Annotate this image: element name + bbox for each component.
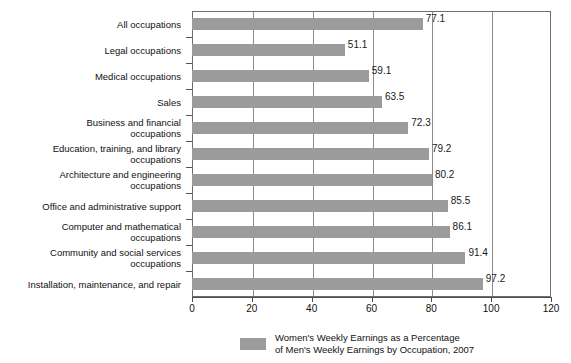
bar-value-label: 80.2 [432,169,454,181]
category-label-line: Sales [0,97,181,108]
y-tick [186,37,192,38]
category-label-line: Business and financial [0,117,181,128]
x-tick-40 [312,297,313,302]
x-tick-label-80: 80 [426,303,437,315]
category-label: Business and financialoccupations [0,117,186,139]
x-tick-120 [551,297,552,302]
bar-value-label: 59.1 [369,65,391,77]
x-tick-label-120: 120 [543,303,560,315]
y-tick [186,115,192,116]
y-tick [186,141,192,142]
legend-label: Women's Weekly Earnings as a Percentage … [275,332,474,355]
y-tick [186,193,192,194]
category-label-line: Computer and mathematical [0,221,181,232]
category-label: Community and social servicesoccupations [0,247,186,269]
category-label-line: Office and administrative support [0,201,181,212]
x-tick-20 [252,297,253,302]
bar-value-label: 97.2 [483,273,505,285]
category-label-line: occupations [0,258,181,269]
category-label: Architecture and engineeringoccupations [0,169,186,191]
y-tick [186,219,192,220]
bar-row: 91.4 [192,245,551,271]
bar-row: 86.1 [192,219,551,245]
category-label: Installation, maintenance, and repair [0,279,186,290]
bar [192,174,432,186]
x-tick-label-60: 60 [366,303,377,315]
bar [192,226,450,238]
category-label-line: occupations [0,128,181,139]
y-tick [186,271,192,272]
category-label-line: All occupations [0,19,181,30]
y-tick [186,89,192,90]
x-tick-0 [192,297,193,302]
bar-row: 77.1 [192,11,551,37]
category-label: Education, training, and libraryoccupati… [0,143,186,165]
bar [192,122,408,134]
bar-value-label: 72.3 [408,117,430,129]
category-label-line: Community and social services [0,247,181,258]
category-label-line: Education, training, and library [0,143,181,154]
bar [192,44,345,56]
x-tick-80 [431,297,432,302]
x-tick-label-100: 100 [483,303,500,315]
category-label: Office and administrative support [0,201,186,212]
y-tick [186,167,192,168]
category-label-line: occupations [0,232,181,243]
legend-swatch [240,338,266,350]
bar-row: 51.1 [192,37,551,63]
bar-value-label: 85.5 [448,195,470,207]
bar-value-label: 51.1 [345,39,367,51]
category-label: Medical occupations [0,71,186,82]
legend-label-line2: of Men's Weekly Earnings by Occupation, … [275,344,474,356]
bar-value-label: 86.1 [450,221,472,233]
bar-row: 80.2 [192,167,551,193]
bar [192,96,382,108]
category-label-line: Medical occupations [0,71,181,82]
chart-legend: Women's Weekly Earnings as a Percentage … [240,332,474,355]
bar [192,200,448,212]
bar-value-label: 63.5 [382,91,404,103]
bar-row: 72.3 [192,115,551,141]
bars-layer: 77.151.159.163.572.379.280.285.586.191.4… [192,11,551,297]
category-label-line: occupations [0,154,181,165]
category-label: Legal occupations [0,45,186,56]
category-label-line: Installation, maintenance, and repair [0,279,181,290]
x-tick-100 [491,297,492,302]
category-label: All occupations [0,19,186,30]
y-tick [186,63,192,64]
category-label-line: occupations [0,180,181,191]
x-tick-label-0: 0 [189,303,195,315]
bar [192,70,369,82]
x-tick-label-20: 20 [246,303,257,315]
bar-row: 97.2 [192,271,551,297]
bar-row: 63.5 [192,89,551,115]
bar [192,278,483,290]
bar-row: 85.5 [192,193,551,219]
bar [192,252,465,264]
bar [192,148,429,160]
x-tick-60 [372,297,373,302]
y-tick [186,245,192,246]
x-tick-label-40: 40 [306,303,317,315]
category-label-line: Architecture and engineering [0,169,181,180]
bar-value-label: 77.1 [423,13,445,25]
legend-label-line1: Women's Weekly Earnings as a Percentage [275,332,474,344]
category-axis-labels: All occupationsLegal occupationsMedical … [0,11,186,297]
bar-row: 79.2 [192,141,551,167]
bar-chart: 77.151.159.163.572.379.280.285.586.191.4… [0,0,571,363]
category-label-line: Legal occupations [0,45,181,56]
bar-value-label: 79.2 [429,143,451,155]
category-label: Sales [0,97,186,108]
bar-row: 59.1 [192,63,551,89]
bar [192,18,423,30]
category-label: Computer and mathematicaloccupations [0,221,186,243]
bar-value-label: 91.4 [465,247,487,259]
